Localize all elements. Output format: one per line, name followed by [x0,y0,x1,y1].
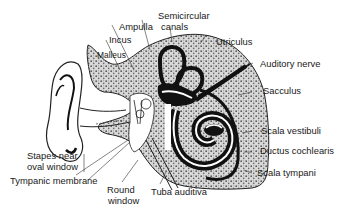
label-ampulla: Ampulla [119,22,153,33]
label-scala-vestibuli: Scala vestibuli [261,126,321,137]
label-sacculus: Sacculus [263,86,301,97]
label-stapes-line1: Stapes near [27,151,78,162]
label-auditory-nerve: Auditory nerve [260,59,320,70]
label-tuba-auditiva: Tuba auditiva [151,187,207,198]
label-utriculus: Utriculus [216,37,252,48]
label-scala-tympani: Scala tympani [257,168,316,179]
label-malleus: Malleus [97,50,126,61]
label-semicircular-canals-line2: canals [161,22,188,33]
label-incus: Incus [109,35,131,46]
label-semicircular-canals-line1: Semicircular [158,11,210,22]
label-tympanic-membrane: Tympanic membrane [10,176,98,187]
label-ductus-cochlearis: Ductus cochlearis [260,146,334,157]
ear-anatomy-diagram: Ampulla Semicircular canals Incus Malleu… [0,0,348,215]
label-round-window-line1: Round [107,185,135,196]
label-stapes-line2: oval window [27,162,78,173]
label-round-window-line2: window [108,196,139,207]
